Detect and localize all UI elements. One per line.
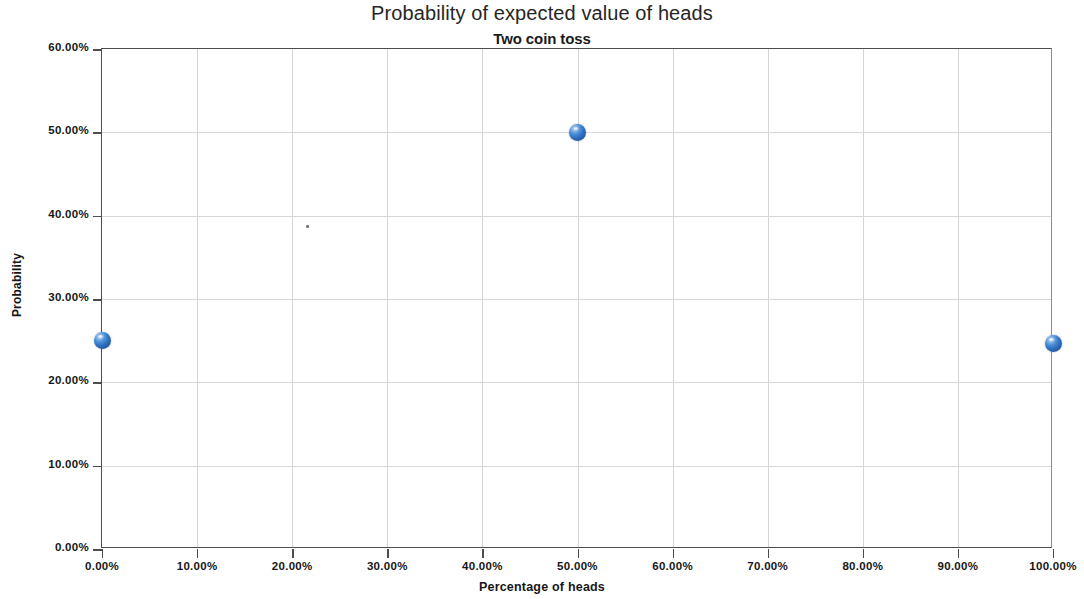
plot-area: 0.00%10.00%20.00%30.00%40.00%50.00%60.00… — [101, 48, 1052, 548]
x-axis-tick-label: 30.00% — [367, 560, 408, 572]
y-axis-tick-label: 50.00% — [48, 124, 89, 136]
data-point-marker[interactable] — [1045, 335, 1062, 352]
gridline-vertical — [863, 49, 864, 547]
x-axis-tick-label: 90.00% — [937, 560, 978, 572]
data-point-marker[interactable] — [569, 124, 586, 141]
scan-artifact-speck — [306, 225, 309, 228]
gridline-vertical — [958, 49, 959, 547]
gridline-vertical — [768, 49, 769, 547]
x-axis-tick — [578, 549, 579, 558]
y-axis-tick — [93, 466, 102, 468]
x-axis-tick — [673, 549, 674, 558]
y-axis-tick-label: 10.00% — [48, 458, 89, 470]
y-axis-tick-label: 30.00% — [48, 291, 89, 303]
x-axis-tick — [863, 549, 864, 558]
gridline-horizontal — [102, 216, 1051, 217]
x-axis-tick — [958, 549, 959, 558]
y-axis-tick-label: 40.00% — [48, 208, 89, 220]
x-axis-tick — [387, 549, 388, 558]
gridline-vertical — [292, 49, 293, 547]
chart-title: Probability of expected value of heads — [0, 2, 1084, 25]
gridline-vertical — [482, 49, 483, 547]
x-axis-title: Percentage of heads — [0, 580, 1084, 594]
x-axis-tick-label: 20.00% — [272, 560, 313, 572]
y-axis-tick-label: 0.00% — [55, 541, 89, 553]
chart-container: Probability of expected value of heads T… — [0, 0, 1084, 599]
x-axis-tick-label: 70.00% — [747, 560, 788, 572]
x-axis-tick — [197, 549, 198, 558]
gridline-vertical — [197, 49, 198, 547]
data-point-marker[interactable] — [94, 332, 111, 349]
x-axis-tick — [292, 549, 293, 558]
y-axis-title: Probability — [4, 0, 30, 599]
y-axis-tick — [93, 49, 102, 51]
gridline-horizontal — [102, 466, 1051, 467]
x-axis-tick-label: 40.00% — [462, 560, 503, 572]
y-axis-tick — [93, 132, 102, 134]
gridline-vertical — [387, 49, 388, 547]
gridline-horizontal — [102, 299, 1051, 300]
y-axis-tick-label: 20.00% — [48, 374, 89, 386]
x-axis-tick — [768, 549, 769, 558]
x-axis-tick-label: 80.00% — [842, 560, 883, 572]
x-axis-tick-label: 0.00% — [85, 560, 119, 572]
x-axis-tick-label: 50.00% — [557, 560, 598, 572]
chart-subtitle: Two coin toss — [0, 30, 1084, 47]
x-axis-tick — [482, 549, 483, 558]
y-axis-tick — [93, 549, 102, 551]
y-axis-tick — [93, 216, 102, 218]
x-axis-tick-label: 60.00% — [652, 560, 693, 572]
x-axis-tick-label: 100.00% — [1029, 560, 1077, 572]
x-axis-tick — [1053, 549, 1054, 558]
x-axis-tick — [102, 549, 103, 558]
y-axis-tick — [93, 382, 102, 384]
gridline-horizontal — [102, 382, 1051, 383]
y-axis-tick — [93, 299, 102, 301]
y-axis-title-text: Probability — [10, 252, 24, 316]
x-axis-tick-label: 10.00% — [177, 560, 218, 572]
y-axis-tick-label: 60.00% — [48, 41, 89, 53]
gridline-vertical — [673, 49, 674, 547]
